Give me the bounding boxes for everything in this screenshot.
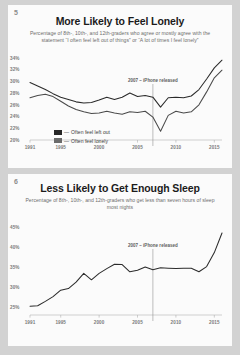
y-axis-tick-label: 45% xyxy=(10,225,20,230)
y-axis-tick-label: 32% xyxy=(10,67,20,72)
y-axis-tick-label: 25% xyxy=(10,305,20,310)
legend-item-left-out: — Often feel left out xyxy=(54,129,110,135)
legend-swatch-icon-lonely xyxy=(54,138,62,143)
x-axis-tick-label: 2015 xyxy=(209,320,220,325)
annotation-label: 2007 – iPhone released xyxy=(128,78,178,83)
chart-subtitle-lonely: Percentage of 8th-, 10th-, and 12th-grad… xyxy=(8,28,232,45)
legend-label-left-out: Often feel left out xyxy=(71,129,110,135)
y-axis-tick-label: 26% xyxy=(10,103,20,108)
y-axis-tick-label: 30% xyxy=(10,285,20,290)
panel-number-5: 5 xyxy=(14,9,18,16)
chart-subtitle-sleep: Percentage of 8th-, 10th-, and 12th-grad… xyxy=(8,195,232,212)
chart-svg-sleep: 25%30%35%40%45%1991199520002005201020152… xyxy=(8,215,232,333)
chart-title-lonely: More Likely to Feel Lonely xyxy=(8,5,232,28)
x-axis-tick-label: 2010 xyxy=(171,145,182,150)
x-axis-tick-label: 2015 xyxy=(209,145,220,150)
annotation-label: 2007 – iPhone released xyxy=(128,243,178,248)
legend-item-lonely: — Often feel lonely xyxy=(54,138,110,144)
chart-panel-sleep: 6 Less Likely to Get Enough Sleep Percen… xyxy=(8,174,232,346)
y-axis-tick-label: 22% xyxy=(10,126,20,131)
plot-area-sleep: 25%30%35%40%45%1991199520002005201020152… xyxy=(8,215,232,333)
x-axis-tick-label: 2000 xyxy=(94,320,105,325)
legend-dash-left-out: — xyxy=(64,129,69,135)
plot-area-lonely: 20%22%24%26%28%30%32%34%1991199520002005… xyxy=(8,48,232,158)
panel-number-6: 6 xyxy=(14,178,18,185)
y-axis-tick-label: 35% xyxy=(10,265,20,270)
y-axis-tick-label: 40% xyxy=(10,245,20,250)
y-axis-tick-label: 20% xyxy=(10,138,20,143)
page-background: 5 More Likely to Feel Lonely Percentage … xyxy=(0,0,240,355)
chart-panel-lonely: 5 More Likely to Feel Lonely Percentage … xyxy=(8,5,232,168)
x-axis-tick-label: 1995 xyxy=(55,320,66,325)
chart-svg-lonely: 20%22%24%26%28%30%32%34%1991199520002005… xyxy=(8,48,232,158)
y-axis-tick-label: 24% xyxy=(10,114,20,119)
x-axis-tick-label: 2005 xyxy=(132,145,143,150)
y-axis-tick-label: 34% xyxy=(10,56,20,61)
y-axis-tick-label: 30% xyxy=(10,79,20,84)
chart-title-sleep: Less Likely to Get Enough Sleep xyxy=(8,174,232,195)
x-axis-tick-label: 2005 xyxy=(132,320,143,325)
legend-swatch-icon-left-out xyxy=(54,130,62,135)
x-axis-tick-label: 1991 xyxy=(25,145,36,150)
y-axis-tick-label: 28% xyxy=(10,91,20,96)
chart-legend-lonely: — Often feel left out — Often feel lonel… xyxy=(54,129,110,146)
data-series-line xyxy=(30,70,222,131)
x-axis-tick-label: 1991 xyxy=(25,320,36,325)
legend-dash-lonely: — xyxy=(64,138,69,144)
legend-label-lonely: Often feel lonely xyxy=(71,138,108,144)
data-series-line xyxy=(30,233,222,306)
x-axis-tick-label: 2010 xyxy=(171,320,182,325)
